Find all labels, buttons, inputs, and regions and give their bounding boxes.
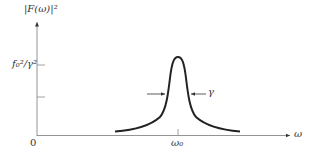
- gamma-width-label: γ: [208, 86, 214, 97]
- resonance-plot: [0, 0, 321, 153]
- origin-label: 0: [30, 137, 36, 148]
- omega0-label: ω₀: [171, 137, 183, 148]
- peak-tick-label: f₀²/γ²: [12, 58, 37, 69]
- resonance-curve: [115, 57, 240, 132]
- x-axis-label: ω: [294, 128, 302, 139]
- y-axis-label: |F(ω)|²: [24, 3, 58, 14]
